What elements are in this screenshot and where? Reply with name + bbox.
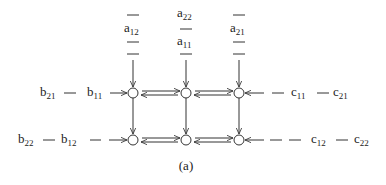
horizontal-connections [141, 91, 233, 142]
label-b11: b11 [87, 84, 102, 101]
node-r1-c3 [234, 88, 244, 98]
label-c22: c22 [354, 131, 369, 148]
node-r1-c1 [128, 88, 138, 98]
figure-caption: (a) [179, 158, 193, 173]
right-input-row-1: c11 c21 [245, 84, 348, 101]
left-input-row-1: b21 b11 [40, 84, 127, 101]
left-input-row-2: b22 b12 [18, 131, 127, 148]
top-input-column-1: a12 [124, 15, 139, 87]
label-c21: c21 [333, 84, 348, 101]
node-r2-c2 [181, 135, 191, 145]
right-input-row-2: c12 c22 [245, 131, 369, 148]
label-b21: b21 [40, 84, 56, 101]
systolic-array-diagram: a12 a22 a11 a21 b21 b11 b22 b12 c11 [0, 0, 386, 185]
label-b22: b22 [18, 131, 34, 148]
label-a11: a11 [177, 33, 191, 50]
node-r2-c3 [234, 135, 244, 145]
label-c11: c11 [291, 84, 305, 101]
label-a21: a21 [230, 20, 245, 37]
node-r1-c2 [181, 88, 191, 98]
top-input-column-2: a22 a11 [177, 5, 192, 87]
node-r2-c1 [128, 135, 138, 145]
top-input-column-3: a21 [230, 15, 245, 87]
vertical-connections [133, 98, 239, 134]
label-c12: c12 [311, 131, 326, 148]
label-a12: a12 [124, 20, 139, 37]
label-b12: b12 [61, 131, 77, 148]
label-a22: a22 [177, 5, 192, 22]
